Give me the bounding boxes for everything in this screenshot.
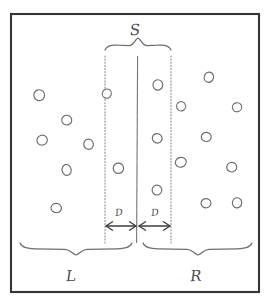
diagram-svg: S D D L R xyxy=(0,0,271,306)
label-distance-right: D xyxy=(150,206,160,218)
label-region-l: L xyxy=(65,267,77,286)
point-left xyxy=(84,139,94,149)
label-region-r: R xyxy=(189,267,202,286)
point-right xyxy=(201,132,212,142)
point-left xyxy=(62,115,72,125)
outer-border xyxy=(11,14,259,292)
point-right xyxy=(201,198,212,208)
point-right xyxy=(232,197,243,208)
point-strip-left xyxy=(113,163,124,174)
point-strip-right xyxy=(153,80,163,91)
point-left xyxy=(50,203,61,213)
point-strip-right xyxy=(152,185,162,195)
label-strip-s: S xyxy=(129,21,141,40)
label-distance-left: D xyxy=(114,206,124,218)
diagram-canvas: S D D L R xyxy=(0,0,271,306)
